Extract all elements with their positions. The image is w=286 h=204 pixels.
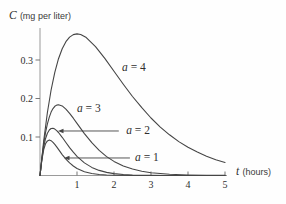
x-axis-unit: (hours) xyxy=(242,167,271,177)
annotation-a-2: a = 2 xyxy=(126,124,150,136)
curve-a-4 xyxy=(40,34,225,176)
curve-a-3 xyxy=(40,105,225,176)
annotation-a-4: a = 4 xyxy=(122,61,146,73)
y-tick-label-0.1: 0.1 xyxy=(21,132,34,143)
x-axis-variable: t xyxy=(236,165,239,177)
x-tick-label-3: 3 xyxy=(149,179,154,190)
drug-concentration-figure: 0.10.20.312345a = 4a = 3a = 2a = 1 C (mg… xyxy=(0,0,286,204)
x-tick-label-4: 4 xyxy=(186,179,191,190)
y-axis-variable: C xyxy=(9,9,17,21)
y-tick-label-0.3: 0.3 xyxy=(21,55,34,66)
x-tick-label-2: 2 xyxy=(112,179,117,190)
y-tick-label-0.2: 0.2 xyxy=(21,93,34,104)
y-axis-title: C (mg per liter) xyxy=(9,5,71,23)
annotation-a-3: a = 3 xyxy=(77,102,101,114)
y-axis-unit: (mg per liter) xyxy=(20,11,71,21)
annotation-a-1: a = 1 xyxy=(135,151,159,163)
x-axis-title: t (hours) xyxy=(236,161,271,179)
x-tick-label-1: 1 xyxy=(75,179,80,190)
x-tick-label-5: 5 xyxy=(223,179,228,190)
